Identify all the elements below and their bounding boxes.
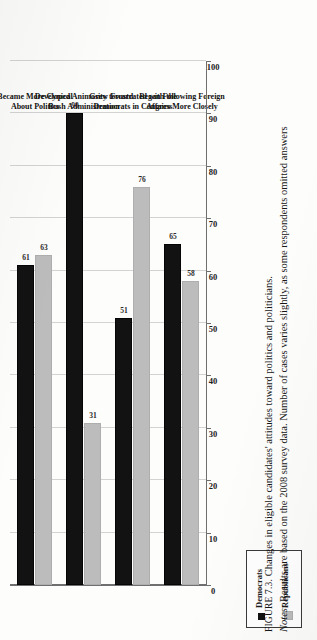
bar-groups: 6163903151766558 (10, 62, 206, 585)
figure-caption-block: FIGURE 7.3. Changes in eligible candidat… (262, 32, 290, 632)
tick-label-0: 0 (211, 586, 215, 596)
bar-value-label: 65 (169, 232, 177, 241)
tick-label-30: 30 (209, 429, 218, 439)
tick-label-100: 100 (207, 62, 220, 72)
figure-title: Changes in eligible candidates' attitude… (263, 276, 274, 576)
bar-value-label: 51 (120, 305, 128, 314)
tick-label-10: 10 (209, 534, 218, 544)
bar-row: 76 (133, 61, 150, 585)
tick-label-80: 80 (209, 167, 218, 177)
bar-value-label: 31 (89, 410, 97, 419)
bar-republicans-1 (84, 423, 101, 585)
bar-value-label: 76 (138, 174, 146, 183)
rotated-figure-canvas: 6163903151766558 Became More CynicalAbou… (0, 0, 317, 640)
bar-row: 31 (84, 61, 101, 585)
tick-label-40: 40 (209, 376, 218, 386)
bar-group: 5176 (108, 62, 157, 585)
bar-row: 90 (66, 61, 83, 585)
tick-label-70: 70 (209, 219, 218, 229)
tick-label-20: 20 (209, 481, 218, 491)
bar-democrats-0 (17, 265, 34, 585)
bar-group: 6558 (157, 62, 206, 585)
bar-democrats-1 (66, 113, 83, 585)
figure-tag: FIGURE 7.3. (264, 579, 274, 632)
bar-republicans-0 (35, 255, 52, 585)
notes-text: Results are based on the 2008 survey dat… (278, 126, 289, 602)
bar-chart: 6163903151766558 Became More CynicalAbou… (6, 60, 242, 632)
tick-label-90: 90 (209, 114, 218, 124)
bar-row: 65 (164, 61, 181, 585)
bar-row: 63 (35, 61, 52, 585)
axis-line (206, 62, 207, 586)
figure-page: 6163903151766558 Became More CynicalAbou… (0, 0, 317, 640)
figure-caption: FIGURE 7.3. Changes in eligible candidat… (262, 32, 277, 632)
tick-label-50: 50 (209, 324, 218, 334)
bar-democrats-2 (115, 318, 132, 585)
bar-value-label: 63 (40, 243, 48, 252)
bar-row: 51 (115, 61, 132, 585)
notes-tag: Notes: (278, 605, 289, 632)
bar-group: 9031 (59, 62, 108, 585)
bar-value-label: 58 (187, 269, 195, 278)
plot-area: 6163903151766558 (10, 62, 206, 586)
bar-value-label: 61 (22, 253, 30, 262)
tick-0 (206, 585, 211, 586)
bar-republicans-2 (133, 187, 150, 585)
bar-row: 58 (182, 61, 199, 585)
bar-republicans-3 (182, 281, 199, 585)
bar-value-label: 90 (71, 101, 79, 110)
bar-democrats-3 (164, 244, 181, 585)
figure-board: 6163903151766558 Became More CynicalAbou… (0, 0, 317, 640)
bar-group: 6163 (10, 62, 59, 585)
tick-label-60: 60 (209, 272, 218, 282)
value-axis: 0102030405060708090100 (206, 62, 240, 586)
figure-notes: Notes: Results are based on the 2008 sur… (277, 32, 291, 632)
bar-row: 61 (17, 61, 34, 585)
